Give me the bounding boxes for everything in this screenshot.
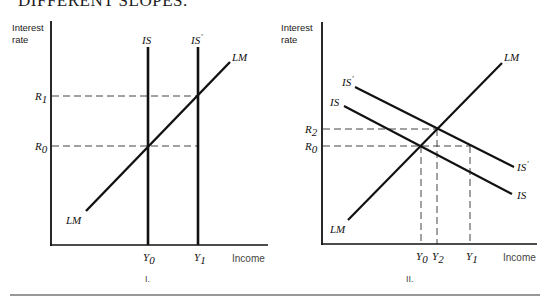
is-label: IS: [141, 34, 152, 46]
is-curve: [344, 106, 512, 194]
lm-curve: [348, 63, 502, 220]
lm-bottom-label: LM: [65, 214, 82, 226]
r2-tick: R2: [304, 123, 318, 138]
x-axis-title: Income: [503, 252, 536, 263]
is-prime-curve: [355, 87, 514, 167]
is-lm-figure: DIFFERENT SLOPES. Interest rate Interest…: [0, 0, 550, 298]
lm-curve: [86, 62, 230, 211]
y2-tick: Y2: [432, 250, 444, 265]
r0-tick: R0: [304, 140, 318, 155]
is-prime-right-label: IS′: [516, 160, 529, 173]
y0-tick: Y0: [143, 251, 155, 266]
is-prime-left-label: IS′: [341, 75, 354, 88]
y0-tick: Y0: [416, 250, 428, 265]
lm-top-label: LM: [231, 51, 248, 63]
is-left-label: IS: [329, 96, 340, 108]
lm-bottom-label: LM: [329, 223, 346, 235]
y1-tick: Y1: [194, 251, 206, 266]
x-axis-title: Income: [232, 253, 265, 264]
panel-2: IS′ IS IS′ IS LM LM R2 R0 Y0 Y2 Y1 Incom…: [304, 22, 537, 265]
is-right-label: IS: [516, 189, 527, 201]
r1-tick: R1: [34, 90, 47, 105]
lm-top-label: LM: [503, 51, 520, 63]
panel-1: IS IS′ LM LM R1 R0 Y0 Y1 Income: [34, 21, 268, 266]
is-prime-label: IS′: [190, 33, 203, 46]
r0-tick: R0: [34, 140, 48, 155]
diagram-canvas: IS IS′ LM LM R1 R0 Y0 Y1 Income: [0, 0, 550, 298]
y1-tick: Y1: [466, 250, 478, 265]
